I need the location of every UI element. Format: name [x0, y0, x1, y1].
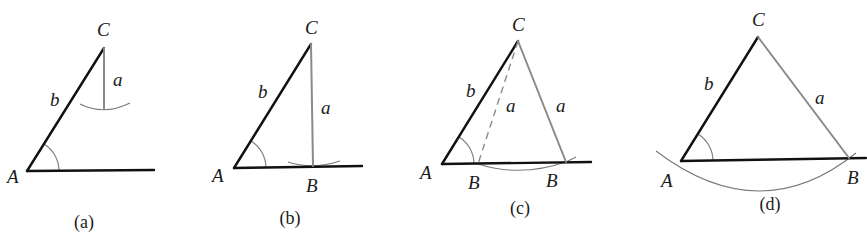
- panel-c: CbaaABB(c): [418, 14, 591, 219]
- panel-caption: (d): [760, 194, 781, 215]
- panel-b: CbaAB(b): [210, 17, 362, 229]
- panel-caption: (b): [280, 208, 301, 229]
- side-b: [681, 37, 758, 161]
- label-B: B: [306, 175, 318, 196]
- label-C: C: [752, 9, 765, 30]
- side-b: [27, 48, 104, 171]
- base-ray: [681, 158, 866, 161]
- label-C: C: [97, 19, 110, 40]
- side-b: [234, 44, 311, 168]
- label-A: A: [5, 166, 19, 187]
- label-A: A: [659, 170, 673, 191]
- label-a: a: [113, 69, 123, 90]
- base-ray: [442, 162, 591, 164]
- label-C: C: [512, 14, 525, 35]
- panel-a: CbaA(a): [5, 19, 154, 233]
- swing-arc: [656, 151, 856, 191]
- label-a: a: [321, 97, 331, 118]
- label-B: B: [847, 167, 859, 188]
- triangle-construction-figure: CbaA(a) CbaAB(b) CbaaABB(c) CbaAB(d): [0, 0, 867, 246]
- label-a: a: [815, 87, 825, 108]
- angle-A-arc: [459, 137, 474, 164]
- panel-caption: (a): [74, 212, 94, 233]
- label-A: A: [418, 162, 432, 183]
- label-a: a: [556, 95, 566, 116]
- figure-canvas: CbaA(a) CbaAB(b) CbaaABB(c) CbaAB(d): [0, 0, 867, 246]
- base-ray: [27, 170, 154, 171]
- swing-arc: [288, 161, 340, 166]
- label-b: b: [50, 89, 60, 110]
- label-B1: B: [468, 172, 480, 193]
- label-b: b: [466, 80, 476, 101]
- angle-A-arc: [698, 134, 713, 161]
- label-b: b: [704, 73, 714, 94]
- angle-A-arc: [251, 141, 266, 168]
- label-A: A: [210, 165, 224, 186]
- side-a: [311, 44, 313, 166]
- label-b: b: [258, 81, 268, 102]
- label-B2: B: [546, 170, 558, 191]
- angle-A-arc: [44, 144, 59, 171]
- side-a: [758, 37, 849, 158]
- label-a-dashed: a: [506, 95, 516, 116]
- base-ray: [234, 166, 362, 168]
- label-C: C: [305, 17, 318, 38]
- panel-d: CbaAB(d): [656, 9, 866, 215]
- panel-caption: (c): [510, 198, 530, 219]
